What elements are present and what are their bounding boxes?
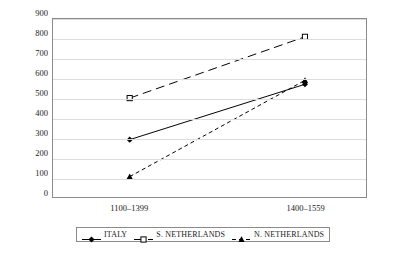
gridline [53,119,366,120]
series-line [130,80,305,176]
series-s-netherlands [127,34,307,100]
gridline [53,159,366,160]
plot-area [52,18,367,198]
gridline [53,79,366,80]
legend-key-icon [82,230,101,239]
legend-item-n-netherlands[interactable]: N. NETHERLANDS [232,230,324,239]
x-axis-tick-label: 1100–1399 [84,202,174,214]
gridline [53,39,366,40]
series-line [130,37,305,98]
gridline [53,19,366,20]
series-italy [127,81,308,143]
gridline [53,59,366,60]
legend-key-icon [232,230,251,239]
y-axis-tick-label: 100 [18,168,48,178]
legend-item-s-netherlands[interactable]: S. NETHERLANDS [134,230,225,239]
y-axis-tick-label: 200 [18,148,48,158]
series-line [130,84,305,139]
y-axis-tick-label: 300 [18,128,48,138]
gridline [53,139,366,140]
legend-key-icon [134,230,153,239]
legend-label: ITALY [104,230,127,239]
series-n-netherlands [127,77,309,179]
data-point-marker [302,77,308,83]
y-axis-tick-label: 500 [18,88,48,98]
y-axis-tick-label: 700 [18,48,48,58]
x-axis-tick-label: 1400–1559 [261,202,351,214]
y-axis-tick-label: 900 [18,8,48,18]
line-chart: Cumulative nos. 900800700600500400300200… [0,0,407,253]
gridline [53,179,366,180]
legend-label: N. NETHERLANDS [254,230,324,239]
legend-label: S. NETHERLANDS [156,230,225,239]
x-axis-tick-labels: 1100–13991400–1559 [52,202,367,216]
y-axis-tick-label: 800 [18,28,48,38]
legend-item-italy[interactable]: ITALY [82,230,127,239]
gridline [53,99,366,100]
y-axis-tick-label: 400 [18,108,48,118]
plot-series-layer [53,19,366,197]
y-axis-tick-label: 600 [18,68,48,78]
chart-legend: ITALYS. NETHERLANDSN. NETHERLANDS [76,227,330,242]
y-axis-tick-label: 0 [18,188,48,198]
y-axis-tick-labels: 9008007006005004003002001000 [18,12,48,204]
